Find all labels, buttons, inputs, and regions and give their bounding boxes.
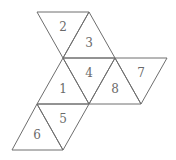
face-5: 5 xyxy=(37,104,89,150)
face-4: 4 xyxy=(63,58,115,104)
face-1: 1 xyxy=(37,58,89,104)
face-label: 2 xyxy=(59,20,67,34)
face-label: 5 xyxy=(59,112,67,126)
face-label: 3 xyxy=(85,36,93,50)
face-6: 6 xyxy=(12,104,63,150)
face-3: 3 xyxy=(63,12,115,58)
face-label: 8 xyxy=(111,82,119,96)
face-2: 2 xyxy=(37,12,89,58)
octahedron-net-diagram: 23148756 xyxy=(0,0,176,160)
face-7: 7 xyxy=(115,58,167,104)
face-label: 7 xyxy=(137,66,145,80)
face-label: 4 xyxy=(85,66,93,80)
face-8: 8 xyxy=(89,58,141,104)
face-label: 6 xyxy=(33,128,41,142)
face-label: 1 xyxy=(59,82,67,96)
